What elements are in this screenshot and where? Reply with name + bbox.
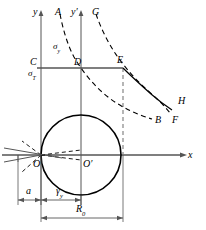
sigma-T-label: σT: [28, 69, 36, 81]
point-label-E: E: [117, 55, 123, 65]
origin-label-O-prime: O′: [83, 159, 92, 169]
y-axis-right-prime: ′: [75, 6, 77, 17]
R0-subscript: 0: [82, 210, 85, 217]
gamma-subscript: y: [60, 192, 63, 199]
curve-GEF: [96, 14, 170, 113]
point-label-C: C: [30, 57, 37, 67]
origin-label-O: O: [33, 159, 40, 169]
dimension-label-R0: R0: [76, 204, 85, 217]
stress-distribution-figure: y y′ x A G C D E H B F σy σT O O′ a γy R…: [0, 0, 206, 230]
dimension-label-a: a: [26, 186, 31, 196]
point-label-H: H: [178, 96, 185, 106]
point-label-G: G: [92, 7, 99, 17]
sigma-T-subscript: T: [32, 75, 35, 81]
dimension-a: [18, 198, 41, 202]
y-axis-right: [79, 10, 84, 205]
point-label-A: A: [55, 7, 61, 17]
sigma-y-subscript: y: [57, 48, 60, 54]
origin-O-prime-mark: ′: [90, 158, 92, 169]
dimension-label-gamma-y: γy: [56, 186, 63, 199]
point-label-F: F: [172, 115, 178, 125]
curve-EH: [123, 68, 172, 110]
sigma-y-label: σy: [53, 42, 60, 54]
point-label-B: B: [155, 115, 161, 125]
x-axis-label: x: [188, 150, 192, 160]
point-label-D: D: [74, 57, 81, 67]
y-axis-left-label: y: [33, 7, 37, 17]
y-axis-right-label: y′: [71, 7, 78, 17]
